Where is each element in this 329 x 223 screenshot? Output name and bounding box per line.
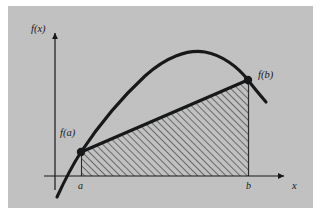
point-label-f-b: f(b) (258, 70, 273, 81)
point-marker-f-b (244, 76, 252, 84)
function-secant-diagram (0, 0, 329, 223)
figure-page: f(x) x a b f(a) f(b) (0, 0, 329, 223)
point-label-f-a: f(a) (60, 128, 75, 139)
tick-label-b: b (246, 181, 251, 191)
x-axis-label: x (292, 181, 297, 192)
y-axis-label: f(x) (31, 24, 46, 35)
tick-label-a: a (78, 181, 83, 191)
point-marker-f-a (77, 148, 85, 156)
shaded-region (81, 80, 248, 176)
